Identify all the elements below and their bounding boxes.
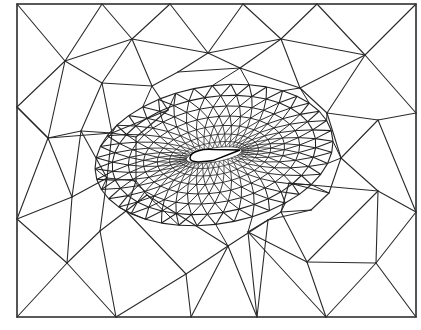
mesh-edge (189, 98, 205, 101)
mesh-edge (270, 144, 271, 148)
mesh-edge (231, 134, 237, 135)
mesh-edge (290, 124, 295, 130)
mesh-edge (248, 151, 259, 152)
mesh-edge (225, 134, 226, 141)
mesh-edge (203, 168, 208, 176)
mesh-edge (48, 61, 65, 138)
mesh-edge (190, 147, 194, 149)
mesh-edge (230, 116, 231, 126)
mesh-edge (231, 157, 234, 158)
mesh-edge (115, 172, 129, 180)
mesh-edge (200, 109, 208, 118)
mesh-edge (252, 205, 254, 217)
mesh-edge (298, 130, 312, 138)
mesh-edge (200, 107, 213, 109)
mesh-edge (72, 131, 81, 197)
mesh-edge (296, 160, 309, 166)
mesh-edge (247, 170, 254, 174)
mesh-edge (241, 183, 251, 187)
mesh-edge (119, 144, 132, 150)
mesh-edge (145, 154, 158, 157)
mesh-edge (219, 166, 224, 167)
mesh-edge (211, 162, 215, 163)
mesh-edge (259, 121, 267, 124)
mesh-edge (240, 106, 252, 107)
mesh-edge (254, 188, 265, 193)
mesh-edge (196, 130, 197, 139)
mesh-edge (265, 157, 268, 162)
mesh-edge (17, 107, 48, 138)
mesh-edge (209, 142, 214, 143)
mesh-edge (248, 232, 257, 317)
mesh-edge (281, 212, 307, 262)
mesh-edge (119, 142, 137, 143)
mesh-edge (115, 180, 120, 188)
mesh-edge (207, 163, 208, 168)
mesh-edge (299, 153, 314, 158)
mesh-edge (252, 108, 264, 111)
mesh-edge (241, 157, 244, 159)
mesh-edge (207, 214, 215, 224)
mesh-edge (238, 159, 242, 161)
mesh-edge (210, 175, 217, 176)
mesh-edge (168, 127, 177, 132)
mesh-edge (308, 121, 327, 122)
mesh-edge (212, 68, 240, 86)
mesh-edge (309, 157, 314, 166)
mesh-edge (284, 150, 298, 153)
mesh-edge (186, 274, 191, 317)
mesh-edge (181, 182, 189, 183)
mesh-edge (283, 138, 285, 144)
mesh-edge (283, 153, 299, 156)
mesh-edge (200, 98, 205, 110)
mesh-edge (270, 148, 271, 153)
mesh-edge (160, 148, 163, 153)
mesh-edge (248, 138, 252, 140)
mesh-edge (268, 140, 270, 144)
mesh-edge (250, 118, 259, 120)
mesh-edge (223, 116, 230, 126)
mesh-edge (265, 182, 275, 188)
mesh-edge (177, 123, 187, 127)
mesh-edge (291, 166, 309, 167)
mesh-edge (214, 175, 217, 184)
mesh-edge (221, 96, 227, 106)
mesh-edge (129, 107, 143, 116)
mesh-edge (252, 87, 267, 97)
mesh-edge (210, 168, 213, 176)
mesh-edge (152, 72, 178, 86)
mesh-edge (218, 134, 220, 141)
mesh-edge (154, 137, 160, 143)
mesh-edge (129, 154, 145, 157)
mesh-edge (231, 187, 242, 190)
mesh-edge (208, 107, 213, 118)
mesh-edge (237, 95, 252, 96)
mesh-edge (378, 120, 416, 212)
mesh-edge (137, 202, 148, 207)
mesh-edge (174, 136, 181, 140)
mesh-edge (215, 201, 228, 203)
mesh-edge (215, 142, 220, 143)
mesh-edge (296, 153, 299, 161)
mesh-edge (187, 120, 198, 123)
mesh-edge (209, 135, 210, 143)
mesh-edge (209, 143, 210, 149)
mesh-edge (178, 192, 188, 194)
mesh-edge (100, 231, 116, 317)
mesh-edge (378, 113, 416, 120)
mesh-edge (296, 157, 314, 160)
mesh-edge (187, 184, 196, 193)
mesh-edge (17, 219, 67, 263)
mesh-edge (208, 168, 213, 169)
mesh-edge (199, 144, 204, 145)
mesh-edge (145, 219, 161, 223)
mesh-edge (138, 186, 145, 192)
mesh-edge (208, 53, 240, 68)
mesh-edge (252, 96, 266, 99)
mesh-edge (257, 220, 268, 317)
mesh-edge (129, 150, 132, 158)
mesh-edge (284, 144, 299, 145)
mesh-edge (268, 192, 281, 199)
mesh-edge (230, 116, 241, 117)
mesh-edge (301, 166, 308, 175)
